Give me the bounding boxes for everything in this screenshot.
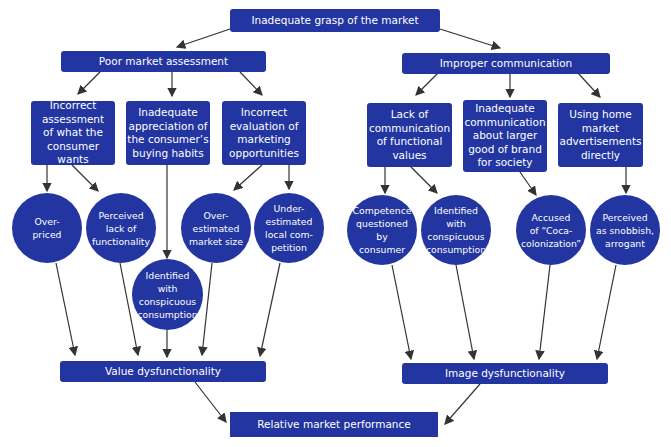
final-label: Relative market performance — [257, 418, 411, 432]
branch-node-improper-communication: Improper communication — [402, 53, 610, 74]
cause-label: Incorrect assessment of what the consume… — [31, 99, 115, 167]
effect-node: Perceived lack of functionality — [86, 193, 156, 263]
effect-label: Over- priced — [32, 215, 61, 241]
effect-label: Over- estimated market size — [189, 209, 243, 248]
cause-label: Using home market advertisements directl… — [560, 108, 642, 162]
effect-node: Identified with conspicuous consumption — [132, 259, 203, 330]
effect-node: Over- estimated market size — [181, 193, 251, 263]
root-label: Inadequate grasp of the market — [251, 14, 418, 28]
outcome-node-image: Image dysfunctionality — [402, 363, 608, 384]
cause-node: Inadequate communication about larger go… — [463, 100, 547, 172]
root-node: Inadequate grasp of the market — [230, 9, 440, 32]
cause-label: Inadequate appreciation of the consumer’… — [127, 106, 208, 160]
cause-node: Incorrect evaluation of marketing opport… — [222, 101, 306, 165]
effect-label: Perceived as snobbish, arrogant — [596, 211, 654, 250]
cause-label: Inadequate communication about larger go… — [464, 102, 545, 170]
branch-label: Poor market assessment — [99, 55, 228, 69]
outcome-label: Value dysfunctionality — [105, 365, 221, 379]
effect-label: Accused of “Coca- colonization” — [521, 211, 581, 250]
cause-node: Inadequate appreciation of the consumer’… — [126, 101, 210, 165]
effect-label: Under- estimated local com- petition — [265, 202, 313, 254]
branch-label: Improper communication — [440, 57, 572, 71]
effect-node: Accused of “Coca- colonization” — [516, 195, 586, 265]
effect-node: Perceived as snobbish, arrogant — [590, 195, 660, 265]
effect-node: Under- estimated local com- petition — [254, 193, 324, 263]
final-node: Relative market performance — [230, 412, 438, 437]
cause-label: Lack of communication of functional valu… — [369, 108, 450, 162]
outcome-label: Image dysfunctionality — [445, 367, 565, 381]
cause-node: Lack of communication of functional valu… — [367, 103, 452, 167]
outcome-node-value: Value dysfunctionality — [60, 361, 266, 382]
cause-node: Incorrect assessment of what the consume… — [31, 101, 115, 165]
effect-label: Identified with conspicuous consumption — [426, 204, 486, 256]
effect-label: Identified with conspicuous consumption — [137, 269, 197, 321]
effect-node: Competence questioned by consumer — [347, 195, 417, 265]
effect-node: Over- priced — [12, 193, 82, 263]
cause-node: Using home market advertisements directl… — [558, 103, 643, 167]
effect-node: Identified with conspicuous consumption — [421, 195, 491, 265]
cause-label: Incorrect evaluation of marketing opport… — [229, 106, 299, 160]
branch-node-poor-market-assessment: Poor market assessment — [61, 51, 266, 72]
effect-label: Perceived lack of functionality — [92, 209, 150, 248]
effect-label: Competence questioned by consumer — [350, 204, 414, 256]
